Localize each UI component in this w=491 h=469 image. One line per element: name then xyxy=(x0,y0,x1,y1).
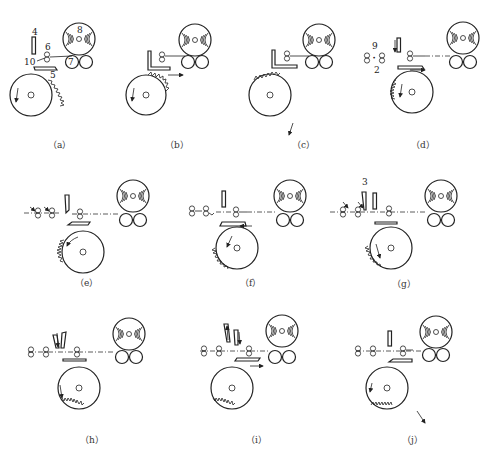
caption-h: （h） xyxy=(80,435,104,445)
panel-j: （j） xyxy=(355,316,452,445)
panel-h: （h） xyxy=(28,318,145,445)
panel-b: （b） xyxy=(126,24,211,150)
panel-d: · 9 2 （d） xyxy=(364,22,479,150)
label-9: 9 xyxy=(372,41,378,51)
panel-e: （e） xyxy=(24,180,149,288)
label-6: 6 xyxy=(45,42,51,52)
caption-j: （j） xyxy=(402,435,423,445)
panel-g: 3 （g） xyxy=(330,177,457,289)
caption-d: （d） xyxy=(411,140,435,150)
label-8: 8 xyxy=(77,25,83,35)
panel-c: （c） xyxy=(249,24,335,150)
caption-c: （c） xyxy=(292,140,315,150)
label-4: 4 xyxy=(32,27,38,37)
caption-i: （i） xyxy=(246,435,267,445)
panel-a: 4 6 10 8 7 5 （a） xyxy=(10,23,95,150)
caption-e: （e） xyxy=(75,278,98,288)
panel-i: （i） xyxy=(200,315,298,445)
drum xyxy=(10,74,52,116)
panel-f: （f） xyxy=(189,180,306,288)
label-7: 7 xyxy=(68,57,74,67)
label-2: 2 xyxy=(374,65,380,75)
caption-b: （b） xyxy=(165,140,189,150)
label-5: 5 xyxy=(50,70,56,80)
cutter-4 xyxy=(32,37,36,54)
label-10: 10 xyxy=(24,57,36,67)
caption-g: （g） xyxy=(392,279,416,289)
svg-text:·: · xyxy=(373,54,375,62)
mechanism-diagram: 4 6 10 8 7 5 （a） （b） （c） xyxy=(0,0,491,469)
rotation-arrow xyxy=(16,88,18,102)
caption-a: （a） xyxy=(48,140,71,150)
caption-f: （f） xyxy=(240,278,261,288)
label-3: 3 xyxy=(362,177,368,187)
